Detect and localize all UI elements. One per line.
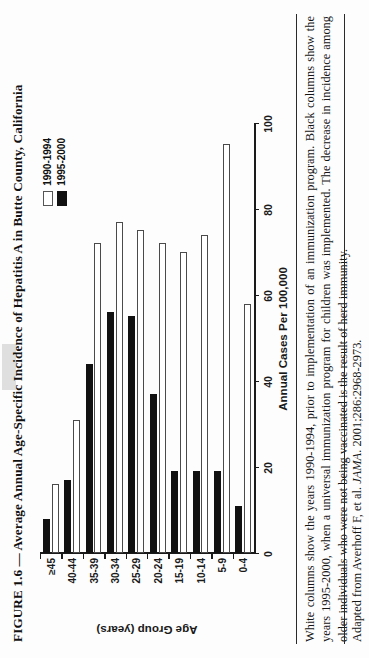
category-label: 35-39	[88, 558, 99, 598]
value-tick-label: 0	[262, 551, 274, 557]
source-journal: JAMA	[350, 453, 364, 484]
page-canvas: FIGURE 1.6 — Average Annual Age-Specific…	[0, 0, 369, 658]
bar-1995-2000	[150, 394, 157, 553]
value-tick	[254, 209, 259, 210]
value-tick-label: 60	[262, 290, 274, 302]
source-prefix: Adapted from Averhoff F, et al.	[350, 484, 364, 642]
value-tick	[254, 381, 259, 382]
category-tick	[83, 554, 84, 559]
category-label: 25-29	[131, 558, 142, 598]
category-label: 0-4	[238, 558, 249, 598]
category-tick	[190, 554, 191, 559]
bar-1990-1994	[73, 420, 80, 553]
value-tick-label: 20	[262, 462, 274, 474]
source-suffix: . 2001;286:2968-2973.	[350, 340, 364, 453]
bar-1990-1994	[52, 484, 59, 553]
category-label: 10-14	[195, 558, 206, 598]
category-tick	[168, 554, 169, 559]
value-tick-label: 100	[262, 115, 274, 133]
value-tick-label: 40	[262, 376, 274, 388]
bar-1995-2000	[128, 317, 135, 554]
category-label: 40-44	[67, 558, 78, 598]
category-label: 20-24	[152, 558, 163, 598]
value-tick-label: 80	[262, 204, 274, 216]
bar-1995-2000	[43, 519, 50, 553]
bar-1990-1994	[180, 252, 187, 553]
value-tick	[254, 553, 259, 554]
scanned-page: FIGURE 1.6 — Average Annual Age-Specific…	[0, 0, 369, 658]
bar-1990-1994	[94, 243, 101, 553]
bar-1990-1994	[137, 231, 144, 554]
category-tick	[40, 554, 41, 559]
bar-1990-1994	[223, 145, 230, 554]
value-tick	[254, 295, 259, 296]
divider-bottom	[344, 14, 345, 644]
category-tick	[104, 554, 105, 559]
category-tick	[211, 554, 212, 559]
category-label: 30-34	[109, 558, 120, 598]
divider-top	[296, 14, 297, 644]
bar-1995-2000	[86, 364, 93, 553]
bar-1995-2000	[171, 471, 178, 553]
category-tick	[61, 554, 62, 559]
chart-figure: 1990-1994 1995-2000 Age Group (years) An…	[36, 124, 286, 640]
bar-1995-2000	[64, 480, 71, 553]
value-tick	[254, 467, 259, 468]
category-label: 5-9	[216, 558, 227, 598]
category-tick	[126, 554, 127, 559]
value-tick	[254, 123, 259, 124]
figure-source: Adapted from Averhoff F, et al. JAMA. 20…	[350, 16, 365, 642]
value-axis-title: Annual Cases Per 100,000	[276, 124, 289, 554]
bar-1990-1994	[116, 222, 123, 553]
figure-title: FIGURE 1.6 — Average Annual Age-Specific…	[10, 22, 26, 642]
value-axis-line	[254, 124, 256, 554]
bar-1990-1994	[159, 243, 166, 553]
bar-1995-2000	[214, 471, 221, 553]
category-tick	[233, 554, 234, 559]
bar-1990-1994	[244, 304, 251, 553]
bar-1995-2000	[235, 506, 242, 553]
category-label: ≥45	[45, 558, 56, 598]
category-label: 15-19	[174, 558, 185, 598]
bar-1995-2000	[107, 312, 114, 553]
category-tick	[147, 554, 148, 559]
bar-1990-1994	[201, 235, 208, 553]
bar-1995-2000	[193, 471, 200, 553]
plot-area: Age Group (years) Annual Cases Per 100,0…	[40, 130, 254, 554]
category-axis-title: Age Group (years)	[96, 624, 197, 637]
